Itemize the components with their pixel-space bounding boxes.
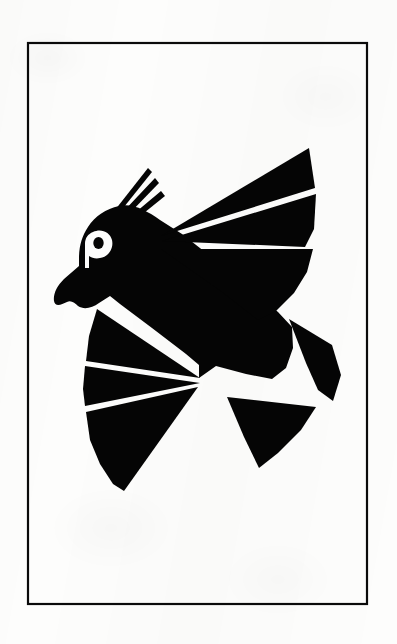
tail-feather-lower	[227, 397, 316, 468]
artboard: Black angular silhouette of a crested bi…	[0, 0, 397, 644]
tail-feather-upper	[289, 319, 341, 401]
bird-illustration-figure	[0, 0, 397, 644]
crested-bird	[54, 148, 341, 491]
lower-wing-feather-3	[86, 387, 198, 491]
